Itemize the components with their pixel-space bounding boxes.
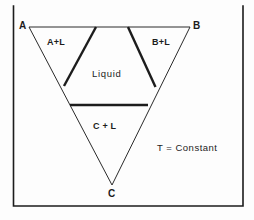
diagram-canvas: [0, 0, 254, 220]
b-liquidus-boundary: [128, 27, 156, 87]
vertex-label-b: B: [193, 21, 200, 31]
vertex-label-a: A: [19, 21, 26, 31]
vertex-label-c: C: [108, 189, 115, 199]
region-label-liquid: Liquid: [92, 69, 122, 79]
temperature-constant-note: T = Constant: [157, 143, 217, 153]
region-label-c-plus-liquid: C + L: [93, 122, 116, 131]
region-label-a-plus-liquid: A+L: [47, 38, 65, 47]
ternary-phase-diagram-figure: A B C A+L B+L Liquid C + L T = Constant: [0, 0, 254, 220]
region-label-b-plus-liquid: B+L: [152, 38, 170, 47]
phase-boundary-lines: [64, 27, 156, 105]
